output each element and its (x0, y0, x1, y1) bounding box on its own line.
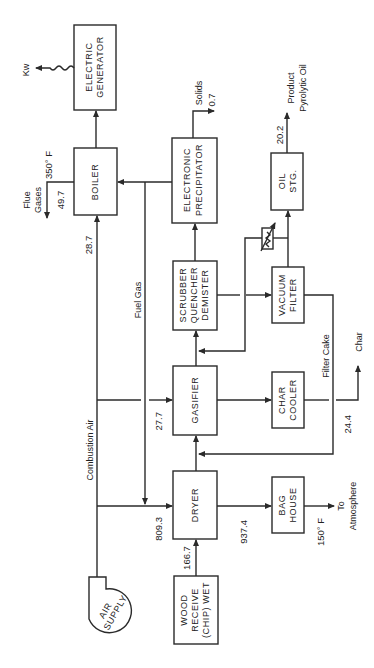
flue-label-1: Flue (22, 191, 32, 209)
electric-generator-label-1: ELECTRIC (84, 42, 94, 91)
oil-storage-label-2: STG. (288, 169, 298, 192)
scrubber-label-1: SCRUBBER (178, 268, 188, 323)
air-supply-blower: AIR SUPPLY (89, 577, 131, 633)
electric-generator-box: ELECTRIC GENERATOR (74, 25, 116, 110)
dryer-exhaust-value: 937.4 (238, 520, 249, 544)
scrubber-box: SCRUBBER QUENCHER DEMISTER (173, 261, 217, 330)
bag-house-label-2: HOUSE (288, 487, 298, 522)
solids-output-arrow (193, 111, 214, 138)
power-output-wavy-arrow (36, 66, 74, 70)
char-cooler-label-1: CHAR (277, 386, 287, 414)
bag-house-box: BAG HOUSE (272, 477, 304, 533)
fuel-gas-label: Fuel Gas (133, 281, 143, 318)
process-flow-diagram: ELECTRIC GENERATOR BOILER ELECTRONIC PRE… (0, 0, 374, 668)
flue-value-label: 49.7 (55, 191, 66, 210)
oil-storage-label-1: OIL (277, 173, 287, 189)
vacuum-filter-box: VACUUM FILTER (272, 267, 304, 323)
char-output-arrow (336, 366, 358, 400)
dryer-label: DRYER (190, 488, 200, 522)
vacuum-filter-label-2: FILTER (288, 278, 298, 312)
electronic-precipitator-box: ELECTRONIC PRECIPITATOR (172, 138, 217, 223)
gasifier-box: GASIFIER (173, 366, 217, 435)
gasifier-air-value: 27.7 (153, 412, 164, 431)
flue-label-2: Gases (33, 186, 43, 213)
baghouse-temp-label: 150° F (315, 518, 326, 546)
heat-exchanger-icon (261, 223, 275, 251)
char-label: Char (354, 332, 364, 352)
product-oil-label-1: Product (286, 72, 296, 104)
wood-receive-box: WOOD RECEIVE (CHIP) WET (174, 576, 218, 644)
to-atmosphere-label-2: Atmosphere (348, 482, 358, 531)
to-atmosphere-label-1: To (336, 501, 346, 511)
boiler-box: BOILER (74, 148, 117, 215)
wood-receive-label-3: (CHIP) WET (201, 582, 211, 638)
dryer-box: DRYER (173, 471, 217, 539)
char-value: 24.4 (342, 415, 353, 434)
wood-receive-label-1: WOOD (179, 594, 189, 625)
precipitator-label-2: PRECIPITATOR (194, 144, 204, 216)
boiler-label: BOILER (90, 164, 100, 201)
electric-generator-label-2: GENERATOR (95, 36, 105, 98)
vacuum-filter-label-1: VACUUM (277, 274, 287, 316)
bag-house-label-1: BAG (277, 495, 287, 516)
product-oil-label-2: Pyrolytic Oil (298, 64, 308, 112)
scrubber-label-3: DEMISTER (200, 269, 210, 320)
dryer-air-value: 809.3 (153, 517, 164, 541)
oil-storage-box: OIL STG. (271, 153, 303, 210)
scrubber-label-2: QUENCHER (189, 267, 199, 323)
flue-temp-label: 350° F (43, 151, 54, 179)
char-cooler-box: CHAR COOLER (272, 372, 304, 428)
kw-label: Kw (21, 63, 31, 76)
filter-cake-label: Filter Cake (321, 334, 331, 378)
solids-value: 0.7 (206, 93, 217, 106)
wood-feed-value: 166.7 (181, 546, 192, 570)
gasifier-label: GASIFIER (190, 377, 200, 424)
filter-cake-recycle-line (199, 295, 333, 454)
char-cooler-label-2: COOLER (288, 379, 298, 421)
boiler-air-value: 28.7 (83, 236, 94, 255)
solids-label: Solids (194, 80, 204, 105)
combustion-air-label: Combustion Air (85, 419, 95, 480)
oil-value: 20.2 (274, 126, 285, 145)
precipitator-label-1: ELECTRONIC (182, 148, 192, 212)
wood-receive-label-2: RECEIVE (190, 588, 200, 632)
